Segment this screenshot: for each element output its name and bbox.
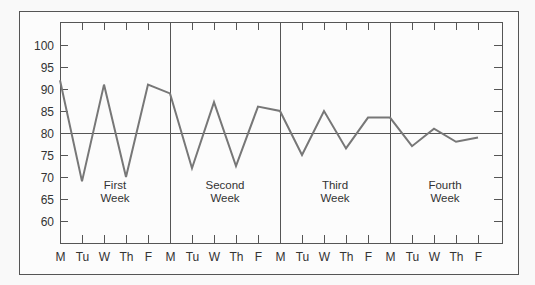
x-tick-label: M [56, 250, 66, 264]
x-tick-label: Tu [76, 250, 90, 264]
x-tick-label: Th [449, 250, 463, 264]
x-tick-label: Th [119, 250, 133, 264]
y-tick-label: 100 [34, 39, 54, 53]
x-tick-label: Th [339, 250, 353, 264]
week-label-line2: Week [210, 192, 239, 204]
x-tick-label: W [429, 250, 441, 264]
x-tick-label: F [475, 250, 482, 264]
x-tick-label: Tu [406, 250, 420, 264]
y-tick-label: 80 [41, 127, 55, 141]
week-label-line1: First [104, 179, 127, 191]
x-tick-label: F [145, 250, 152, 264]
x-tick-label: W [319, 250, 331, 264]
week-label-line2: Week [320, 192, 349, 204]
y-tick-label: 65 [41, 193, 55, 207]
x-tick-label: M [386, 250, 396, 264]
week-label-line1: Second [205, 179, 244, 191]
y-tick-label: 75 [41, 149, 55, 163]
x-tick-label: W [209, 250, 221, 264]
x-tick-label: Tu [296, 250, 310, 264]
y-tick-label: 70 [41, 171, 55, 185]
y-tick-label: 60 [41, 215, 55, 229]
week-label-line2: Week [100, 192, 129, 204]
y-tick-label: 90 [41, 83, 55, 97]
week-label-line1: Fourth [428, 179, 461, 191]
week-label-line2: Week [430, 192, 459, 204]
x-tick-label: F [255, 250, 262, 264]
y-tick-label: 85 [41, 105, 55, 119]
x-tick-label: Th [229, 250, 243, 264]
outer-frame [20, 12, 519, 275]
week-label-line1: Third [322, 179, 348, 191]
x-tick-label: W [99, 250, 111, 264]
weekly-line-chart: 6065707580859095100MTuWThFMTuWThFMTuWThF… [0, 0, 535, 285]
y-tick-label: 95 [41, 61, 55, 75]
x-tick-label: F [365, 250, 372, 264]
x-tick-label: M [166, 250, 176, 264]
x-tick-label: Tu [186, 250, 200, 264]
x-tick-label: M [276, 250, 286, 264]
